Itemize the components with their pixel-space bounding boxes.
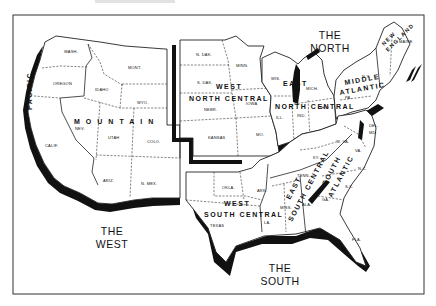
label-wnc-2: NORTH CENTRAL [189,95,269,102]
label-ala: ALA. [302,202,311,207]
label-enc-2: NORTH CENTRAL [275,103,355,110]
label-ind: IND. [297,113,306,118]
label-ndak: N. DAK. [196,52,212,57]
map-svg: WASH. OREGON CALIF. IDAHO MONT. WYO. NEV… [0,0,436,306]
faint-caption [95,0,175,3]
label-sc: S.C. [345,184,354,189]
label-pacific: PACIFIC [26,72,33,110]
label-miss: MISS. [280,205,292,210]
label-sdak: S. DAK. [197,80,213,85]
label-nev: NEV. [75,126,85,131]
label-va: VA. [355,148,362,153]
label-west-2: WEST [96,238,128,250]
label-pa: PA. [345,95,352,100]
label-md: MD. [369,130,377,135]
label-north-1: THE [319,29,342,41]
label-wnc-1: WEST [216,83,242,90]
label-wva: W. VA. [336,139,349,144]
label-ark: ARK. [257,188,267,193]
label-ga: GA. [322,197,330,202]
label-nebr: NEBR. [204,107,217,112]
label-south-2: SOUTH [260,275,299,287]
census-region-map: WASH. OREGON CALIF. IDAHO MONT. WYO. NEV… [0,0,436,306]
label-minn: MINN. [236,63,248,68]
label-wsc-2: SOUTH CENTRAL [204,211,283,218]
label-calif: CALIF. [45,143,58,148]
label-west-1: THE [101,225,124,237]
label-mo: MO. [256,132,264,137]
label-nc: N.C. [358,166,367,171]
label-ill: ILL. [276,115,283,120]
label-fla: FLA. [352,237,361,242]
label-oregon: OREGON [53,81,72,86]
label-wyo: WYO. [137,100,148,105]
label-colo: COLO. [147,139,160,144]
label-la: LA. [264,220,271,225]
label-wash: WASH. [64,49,78,54]
label-mont: MONT. [128,65,141,70]
label-ariz: ARIZ. [103,178,114,183]
label-north-2: NORTH [310,42,350,54]
label-wsc-1: WEST [224,200,250,207]
label-enc-1: EAST [283,80,308,87]
label-nmex: N. MEX. [141,181,157,186]
label-mich: MICH. [306,86,318,91]
label-utah: UTAH [108,135,119,140]
label-kansas: KANSAS [208,135,226,140]
label-okla: OKLA. [222,185,235,190]
label-del: DEL. [369,123,379,128]
label-wis: WIS. [271,76,280,81]
label-texas: TEXAS [210,223,224,228]
label-idaho: IDAHO [95,87,109,92]
label-mountain: MOUNTAIN [74,118,159,125]
label-south-1: THE [269,262,292,274]
